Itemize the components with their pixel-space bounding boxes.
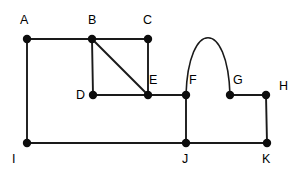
vertex-g (226, 91, 234, 99)
vertex-label-d: D (76, 88, 85, 102)
vertex-j (182, 139, 190, 147)
vertex-label-f: F (189, 73, 197, 87)
vertex-label-g: G (233, 73, 243, 87)
vertex-label-b: B (88, 13, 96, 27)
vertex-label-e: E (149, 73, 157, 87)
vertex-label-j: J (182, 152, 188, 166)
vertex-label-a: A (20, 13, 29, 27)
vertex-k (263, 139, 271, 147)
edge-h-k (266, 95, 267, 143)
vertex-label-c: C (143, 13, 152, 27)
vertex-label-h: H (279, 79, 288, 93)
vertex-e (144, 91, 152, 99)
vertex-b (88, 35, 96, 43)
vertex-c (144, 35, 152, 43)
vertex-label-k: K (262, 152, 271, 166)
vertex-a (23, 35, 31, 43)
vertex-h (262, 91, 270, 99)
edge-b-d (92, 39, 93, 95)
vertex-label-i: I (12, 152, 15, 166)
vertex-d (89, 91, 97, 99)
vertex-i (23, 139, 31, 147)
vertex-f (182, 91, 190, 99)
graph-diagram: ABCDEFGHIJK (0, 0, 300, 173)
